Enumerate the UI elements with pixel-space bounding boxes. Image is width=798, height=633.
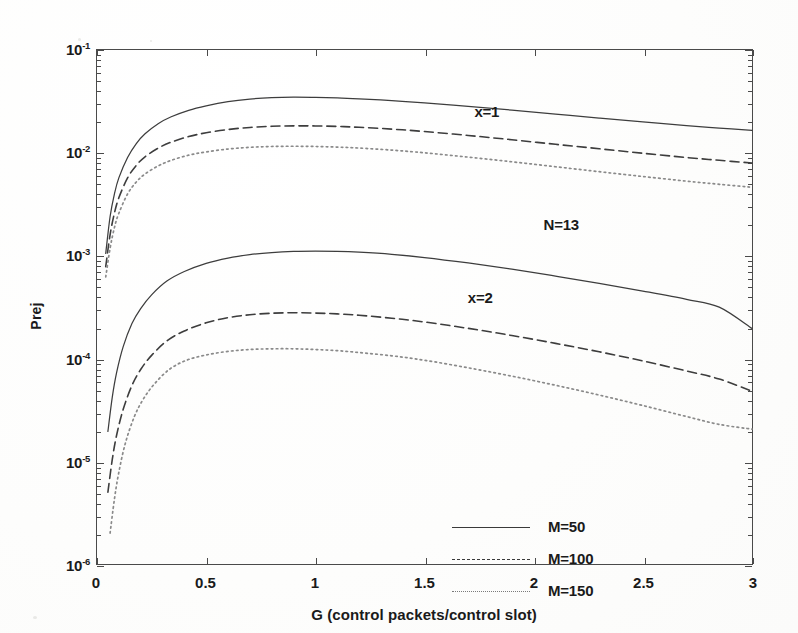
x-axis-tick-label: 0.5 <box>195 574 216 591</box>
scan-speck <box>78 38 81 41</box>
legend-item-label: M=50 <box>548 518 585 535</box>
figure-canvas: Prej G (control packets/control slot) 10… <box>0 0 798 633</box>
y-axis-tick-major <box>97 566 104 567</box>
legend-item: M=100 <box>452 544 667 576</box>
plot-annotation-label: x=1 <box>474 103 499 120</box>
legend-item: M=150 <box>452 576 667 608</box>
scan-speck <box>150 40 152 42</box>
legend-line-sample-dashed <box>452 559 530 560</box>
x-axis-tick-label: 0 <box>92 574 100 591</box>
y-axis-tick-label: 10-4 <box>48 350 90 368</box>
y-axis-title: Prej <box>28 302 44 329</box>
legend-item: M=50 <box>452 512 667 544</box>
curve-solid <box>108 251 752 431</box>
legend: M=50 M=100 M=150 <box>452 512 667 608</box>
legend-line-sample-dotted <box>452 591 530 592</box>
curve-dashed <box>108 313 752 492</box>
curve-dotted <box>106 146 752 277</box>
x-axis-tick <box>753 50 754 56</box>
curve-solid <box>106 97 752 253</box>
x-axis-title: G (control packets/control slot) <box>311 606 537 623</box>
legend-item-label: M=100 <box>548 550 593 567</box>
y-axis-tick-label: 10-6 <box>48 556 90 574</box>
y-axis-tick-label: 10-2 <box>48 143 90 161</box>
legend-item-label: M=150 <box>548 582 593 599</box>
plot-annotation-label: x=2 <box>468 289 493 306</box>
curve-dashed <box>106 126 752 267</box>
curve-layer <box>97 50 752 564</box>
y-axis-tick-label: 10-3 <box>48 246 90 264</box>
x-axis-tick-label: 3 <box>749 574 757 591</box>
plot-area: x=1N=13x=2 M=50 M=100 M=150 <box>96 49 753 565</box>
y-axis-tick-label: 10-1 <box>48 40 90 58</box>
legend-line-sample-solid <box>452 527 530 528</box>
y-axis-tick-major <box>745 566 752 567</box>
x-axis-tick <box>753 558 754 564</box>
x-axis-tick-label: 1 <box>311 574 319 591</box>
x-axis-tick-label: 1.5 <box>414 574 435 591</box>
scan-speck <box>33 616 37 619</box>
plot-annotation-label: N=13 <box>544 216 579 233</box>
curve-dotted <box>110 349 752 533</box>
y-axis-tick-label: 10-5 <box>48 453 90 471</box>
